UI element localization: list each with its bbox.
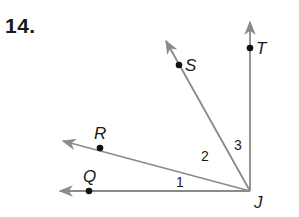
angle-diagram: T S R Q J 1 2 3 — [0, 0, 299, 217]
ray-jq: Q — [60, 167, 250, 194]
point-r — [97, 145, 104, 152]
angle-1-label: 1 — [176, 174, 184, 190]
angle-2-label: 2 — [201, 148, 209, 164]
label-t: T — [256, 39, 268, 58]
label-q: Q — [83, 167, 96, 186]
point-t — [247, 45, 254, 52]
label-j: J — [253, 193, 263, 212]
label-s: S — [185, 56, 197, 75]
point-s — [176, 62, 183, 69]
angle-3-label: 3 — [234, 137, 242, 153]
point-q — [86, 188, 93, 195]
label-r: R — [94, 124, 106, 143]
ray-jt: T — [247, 22, 268, 191]
ray-js: S — [166, 41, 250, 191]
